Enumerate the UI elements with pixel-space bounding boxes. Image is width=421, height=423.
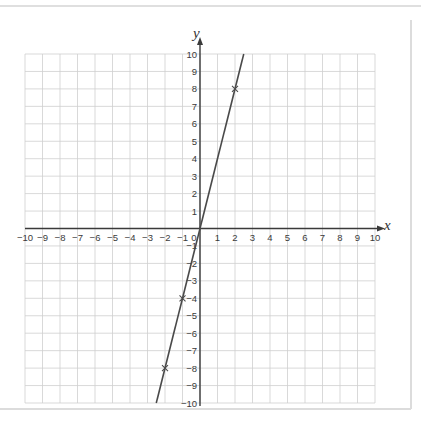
- y-tick-label: 2: [192, 188, 197, 199]
- y-tick-label: −10: [181, 398, 197, 409]
- y-tick-label: 10: [186, 49, 197, 60]
- x-tick-label: 5: [285, 232, 290, 243]
- x-tick-label: 8: [337, 232, 342, 243]
- x-tick-label: 10: [370, 232, 381, 243]
- y-tick-label: −9: [186, 380, 197, 391]
- y-tick-label: −5: [186, 310, 197, 321]
- y-tick-label: −4: [186, 293, 197, 304]
- y-tick-label: 9: [192, 66, 197, 77]
- graph-figure: −10−9−8−7−6−5−4−3−2−1012345678910−10−9−8…: [0, 0, 421, 423]
- x-tick-label: −8: [55, 232, 66, 243]
- y-axis-label: y: [191, 25, 200, 41]
- y-tick-label: 5: [192, 136, 197, 147]
- x-tick-label: 6: [302, 232, 307, 243]
- x-tick-label: 4: [267, 232, 272, 243]
- y-tick-label: 4: [192, 153, 197, 164]
- coordinate-grid-chart: −10−9−8−7−6−5−4−3−2−1012345678910−10−9−8…: [0, 0, 421, 423]
- x-tick-label: −5: [107, 232, 118, 243]
- x-tick-label: −4: [125, 232, 136, 243]
- x-tick-label: 7: [320, 232, 325, 243]
- y-tick-label: 6: [192, 118, 197, 129]
- y-tick-label: 1: [192, 206, 197, 217]
- x-tick-label: −6: [90, 232, 101, 243]
- x-tick-label: −10: [17, 232, 33, 243]
- x-tick-label: −2: [160, 232, 171, 243]
- y-tick-label: 8: [192, 83, 197, 94]
- x-tick-label: 3: [250, 232, 255, 243]
- y-tick-label: 3: [192, 171, 197, 182]
- y-tick-label: −6: [186, 328, 197, 339]
- x-tick-label: 2: [232, 232, 237, 243]
- x-tick-label: 1: [215, 232, 220, 243]
- x-tick-label: −9: [37, 232, 48, 243]
- x-axis-label: x: [383, 217, 391, 233]
- y-tick-label: −7: [186, 345, 197, 356]
- x-tick-label: −7: [72, 232, 83, 243]
- y-tick-label: 7: [192, 101, 197, 112]
- x-tick-label: 9: [355, 232, 360, 243]
- y-tick-label: −8: [186, 363, 197, 374]
- x-tick-label: −3: [142, 232, 153, 243]
